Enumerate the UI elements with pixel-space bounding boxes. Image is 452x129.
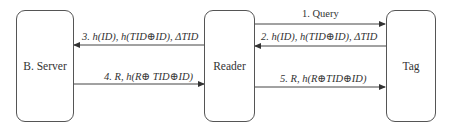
node-tag: Tag [386, 10, 436, 122]
message-2-label: 2. h(ID), h(TID⊕ID), ΔTID [261, 30, 377, 42]
message-3-label: 3. h(ID), h(TID⊕ID), ΔTID [82, 30, 198, 42]
node-server-label: B. Server [23, 60, 66, 72]
node-reader-label: Reader [213, 60, 246, 72]
node-reader: Reader [204, 10, 255, 122]
message-4-label: 4. R, h(R⊕ TID⊕ID) [104, 70, 193, 82]
message-1-label: 1. Query [302, 8, 339, 19]
node-tag-label: Tag [402, 60, 419, 72]
message-5-label: 5. R, h(R⊕TID⊕ID) [280, 72, 366, 84]
node-server: B. Server [16, 10, 74, 122]
